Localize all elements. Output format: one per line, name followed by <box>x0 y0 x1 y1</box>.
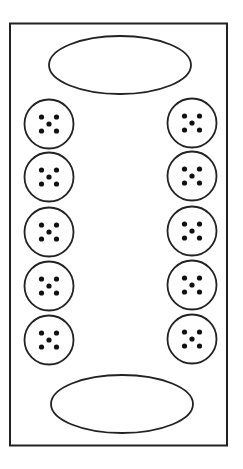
seed <box>182 235 187 240</box>
seed <box>197 235 202 240</box>
seed <box>39 128 44 133</box>
seed <box>39 344 44 349</box>
left-pit-4[interactable] <box>25 262 74 311</box>
right-pit-3[interactable] <box>168 207 217 256</box>
seed <box>197 113 202 118</box>
right-pit-2[interactable] <box>168 152 217 201</box>
seed <box>39 276 44 281</box>
seed <box>182 343 187 348</box>
seed <box>54 222 59 227</box>
seed <box>189 336 194 341</box>
seed <box>182 289 187 294</box>
seed <box>197 343 202 348</box>
left-pit-2[interactable] <box>25 153 74 202</box>
seed <box>46 121 51 126</box>
seed <box>197 275 202 280</box>
right-pit-4[interactable] <box>168 261 217 310</box>
seed <box>54 128 59 133</box>
seed <box>39 114 44 119</box>
seed <box>54 181 59 186</box>
left-pit-3[interactable] <box>25 208 74 257</box>
left-pit-1[interactable] <box>25 100 74 149</box>
seed <box>39 236 44 241</box>
seed <box>46 283 51 288</box>
seed <box>197 127 202 132</box>
top-store[interactable] <box>49 36 191 94</box>
seed <box>197 289 202 294</box>
seed <box>197 221 202 226</box>
seed <box>189 173 194 178</box>
seed <box>46 337 51 342</box>
right-pit-1[interactable] <box>168 99 217 148</box>
board-outline <box>10 24 227 446</box>
seed <box>39 167 44 172</box>
seed <box>39 222 44 227</box>
seed <box>54 344 59 349</box>
seed <box>197 180 202 185</box>
seed <box>54 330 59 335</box>
seed <box>39 181 44 186</box>
right-pit-5[interactable] <box>168 315 217 364</box>
seed <box>189 120 194 125</box>
seed <box>182 127 187 132</box>
seed <box>54 276 59 281</box>
seed <box>46 174 51 179</box>
seed <box>182 275 187 280</box>
seed <box>189 228 194 233</box>
seed <box>182 221 187 226</box>
seed <box>54 290 59 295</box>
seed <box>182 166 187 171</box>
seed <box>39 290 44 295</box>
seed <box>54 236 59 241</box>
seed <box>54 114 59 119</box>
bottom-store[interactable] <box>51 375 193 433</box>
seed <box>197 166 202 171</box>
seed <box>189 282 194 287</box>
seed <box>182 329 187 334</box>
seed <box>182 180 187 185</box>
seed <box>182 113 187 118</box>
seed <box>197 329 202 334</box>
seed <box>54 167 59 172</box>
left-pit-5[interactable] <box>25 316 74 365</box>
seed <box>46 229 51 234</box>
mancala-board-diagram <box>0 0 243 469</box>
seed <box>39 330 44 335</box>
